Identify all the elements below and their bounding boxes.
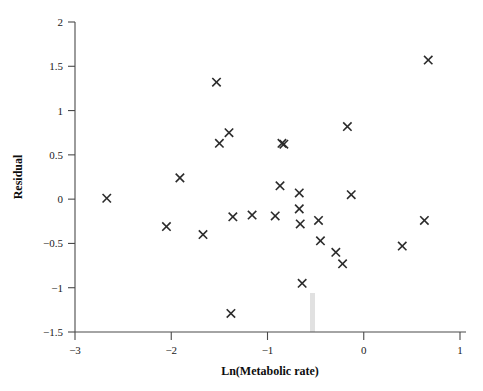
x-tick-label: −1 <box>262 344 274 356</box>
x-axis-title: Ln(Metabolic rate) <box>221 364 319 378</box>
y-tick-label: −1.5 <box>43 326 63 338</box>
x-tick-label: 1 <box>457 344 463 356</box>
x-tick-label: 0 <box>361 344 367 356</box>
y-tick-label: 1 <box>58 105 64 117</box>
y-tick-label: −0.5 <box>43 237 63 249</box>
x-tick-label: −3 <box>69 344 81 356</box>
y-tick-label: −1 <box>51 282 63 294</box>
scatter-chart: −1.5−1−0.500.511.52 −3−2−101 Ln(Metaboli… <box>0 0 483 391</box>
y-axis-title: Residual <box>11 154 25 199</box>
y-tick-label: 2 <box>58 16 64 28</box>
y-tick-label: 0 <box>58 193 64 205</box>
chart-canvas: −1.5−1−0.500.511.52 −3−2−101 Ln(Metaboli… <box>0 0 483 391</box>
y-tick-label: 0.5 <box>49 149 63 161</box>
y-tick-label: 1.5 <box>49 60 63 72</box>
scan-artifact <box>310 293 315 332</box>
x-tick-label: −2 <box>165 344 177 356</box>
